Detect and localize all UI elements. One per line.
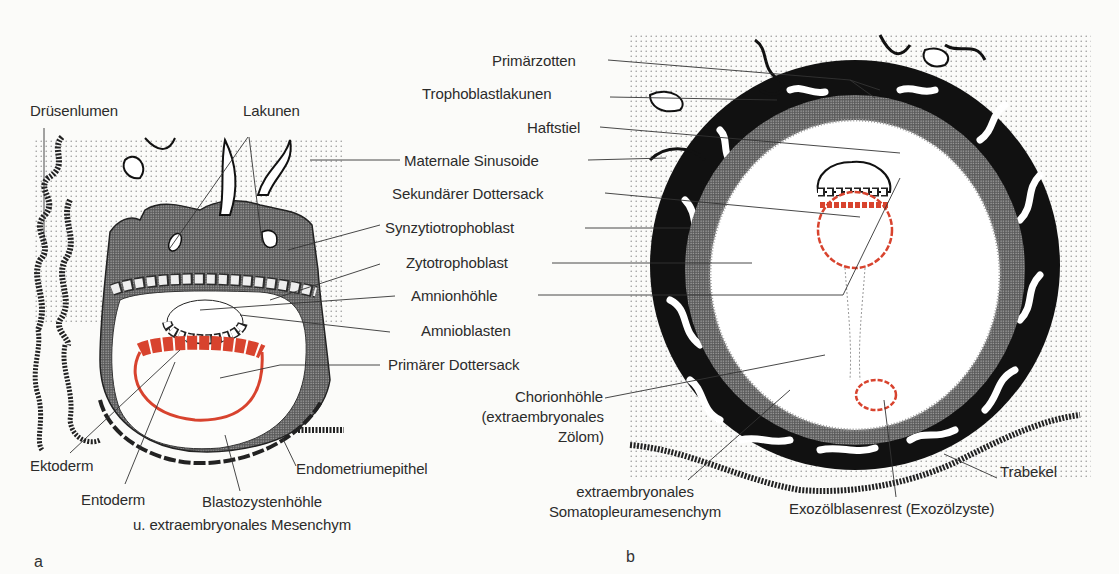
label-amnionhoehle: Amnionhöhle <box>411 287 497 304</box>
label-zytotrophoblast: Zytotrophoblast <box>406 254 508 271</box>
label-haftstiel: Haftstiel <box>527 119 580 136</box>
label-blastozystenhoehle: Blastozystenhöhle <box>202 493 322 510</box>
label-exozoelblasenrest: Exozölblasenrest (Exozölzyste) <box>789 500 994 517</box>
label-maternale-sinusoide: Maternale Sinusoide <box>404 152 539 169</box>
label-trabekel: Trabekel <box>1000 463 1057 480</box>
label-amnioblasten: Amnioblasten <box>421 322 511 339</box>
label-somatopleura-2: Somatopleuramesenchym <box>510 503 760 520</box>
label-entoderm: Entoderm <box>81 491 145 508</box>
panel-letter-b: b <box>626 548 635 566</box>
label-somatopleura-1: extraembryonales <box>510 483 760 500</box>
label-synzytiotrophoblast: Synzytiotrophoblast <box>385 219 514 236</box>
label-druesenlumen: Drüsenlumen <box>30 102 118 119</box>
label-chorionhoehle-3: Zölom) <box>470 428 604 445</box>
label-endometriumepithel: Endometriumepithel <box>296 460 428 477</box>
label-primaerzotten: Primärzotten <box>492 52 576 69</box>
panel-letter-a: a <box>34 553 43 571</box>
label-chorionhoehle-2: (extraembryonales <box>440 408 604 425</box>
label-extraembryonales-mesenchym: u. extraembryonales Mesenchym <box>133 516 351 533</box>
label-lakunen: Lakunen <box>243 102 300 119</box>
panel-a-drawing <box>32 137 344 463</box>
label-trophoblastlakunen: Trophoblastlakunen <box>422 85 551 102</box>
label-chorionhoehle: Chorionhöhle <box>470 388 603 405</box>
label-primaerer-dottersack: Primärer Dottersack <box>388 356 519 373</box>
label-sekundaerer-dottersack: Sekundärer Dottersack <box>392 185 543 202</box>
label-ektoderm: Ektoderm <box>30 457 93 474</box>
